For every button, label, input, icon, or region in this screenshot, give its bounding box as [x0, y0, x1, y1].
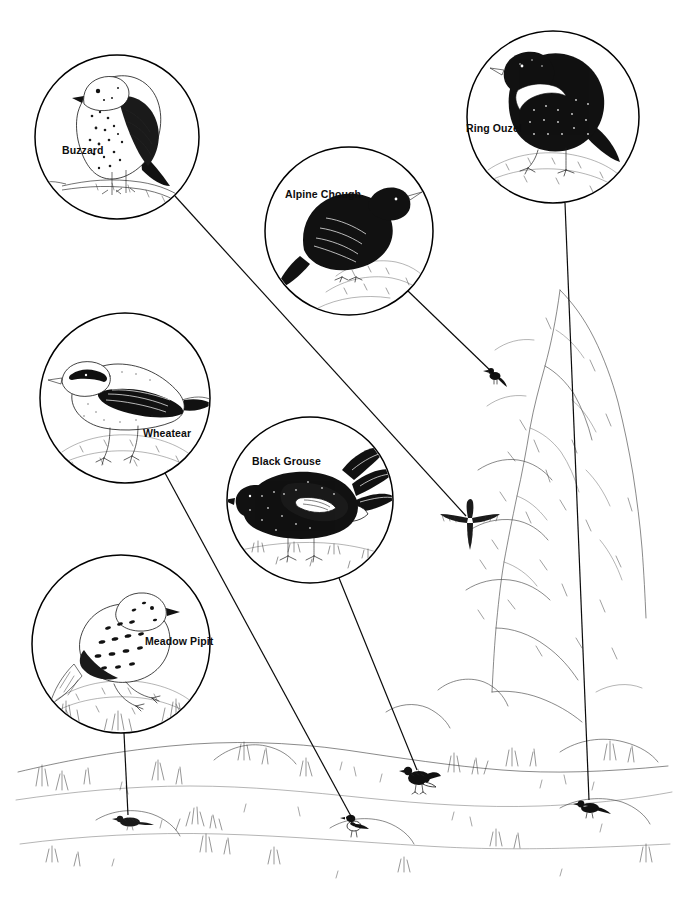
callout-circle-alpine-chough[interactable] [265, 147, 433, 315]
callout-label-alpine-chough: Alpine Chough [285, 189, 361, 200]
callout-circle-buzzard[interactable] [35, 55, 199, 219]
scene-bird-buzzard [440, 499, 500, 550]
scene-bird-black-grouse [399, 767, 441, 794]
callout-circle-black-grouse[interactable] [223, 417, 400, 583]
foreground-ground [16, 739, 672, 849]
leader-line-alpine-chough [408, 291, 494, 374]
leader-line-black-grouse [339, 578, 417, 770]
rock-crag [386, 290, 646, 728]
scene-bird-meadow-pipit [112, 816, 154, 830]
illustration-plate: Buzzard Alpine Chough Ring Ouzel Wheatea… [0, 0, 688, 902]
callout-label-wheatear: Wheatear [143, 428, 191, 439]
scene-bird-alpine-chough [483, 368, 507, 387]
leader-line-meadow-pipit [124, 733, 128, 815]
callout-label-buzzard: Buzzard [62, 145, 104, 156]
callout-label-black-grouse: Black Grouse [252, 456, 321, 467]
leader-line-ring-ouzel [565, 203, 589, 800]
callout-label-meadow-pipit: Meadow Pipit [145, 636, 213, 647]
callout-label-ring-ouzel: Ring Ouzel [466, 123, 522, 134]
scene-bird-ring-ouzel [573, 801, 611, 818]
callout-circle-ring-ouzel[interactable] [467, 31, 639, 203]
landscape-scene [0, 0, 688, 902]
scene-bird-wheatear [340, 815, 369, 837]
grass-tussocks [36, 741, 652, 878]
callout-circle-wheatear[interactable] [40, 313, 212, 483]
